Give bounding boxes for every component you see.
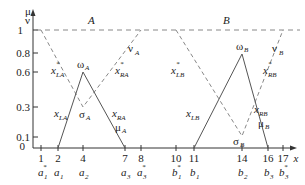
omega-a-label: ωA [77, 58, 90, 72]
y-tick-label: 0.6 [16, 66, 30, 78]
svg-text:1: 1 [196, 173, 200, 181]
svg-text:*: * [120, 60, 124, 68]
svg-text:1: 1 [60, 173, 64, 181]
x-star-lb-label: xLB* [170, 60, 185, 79]
mu-a-label: μA [115, 121, 127, 135]
svg-text:LB: LB [175, 71, 185, 79]
svg-text:2: 2 [85, 173, 89, 181]
x-rb-label: xRB [253, 103, 268, 118]
x-sub-label-a1: a1 [54, 166, 64, 181]
svg-text:RB: RB [267, 71, 277, 79]
x-sub-label-b1-star: b1* [172, 163, 182, 181]
y-axis-arrow-icon [31, 9, 36, 16]
set-b-label: B [223, 14, 230, 26]
svg-text:ν: ν [272, 42, 277, 54]
fuzzy-sets-chart: μ ν 1 0.8 0.6 0.3 0.1 0 1 2 4 7 8 10 11 [0, 0, 305, 185]
x-sub-labels: a1* a1 a2 a3 a3* b1* b1 b2 b3 b3* [38, 163, 289, 181]
x-tick-label: 14 [237, 152, 249, 164]
x-sub-label-a2: a2 [79, 166, 89, 181]
svg-text:2: 2 [244, 173, 248, 181]
svg-text:*: * [268, 60, 272, 68]
x-tick-labels: 1 2 4 7 8 10 11 14 16 17 x [38, 152, 298, 164]
svg-text:RA: RA [119, 71, 129, 79]
svg-text:1: 1 [178, 173, 182, 181]
x-lb-label: xLB [185, 107, 200, 122]
svg-text:*: * [56, 60, 60, 68]
svg-text:A: A [134, 49, 140, 57]
x-star-rb-label: xRB* [262, 60, 277, 79]
nu-a-curve [41, 30, 141, 107]
x-la-label: xLA [53, 107, 68, 122]
y-axis-label-nu: ν [25, 14, 30, 26]
x-sub-label-a3: a3 [121, 166, 131, 181]
y-tick-label: 0.8 [16, 47, 30, 59]
svg-text:ω: ω [77, 58, 84, 70]
svg-text:LB: LB [190, 114, 200, 122]
mu-b-label: μB [258, 117, 270, 131]
x-tick-label: 16 [263, 152, 275, 164]
y-tick-label: 1 [18, 24, 24, 36]
svg-text:A: A [84, 64, 90, 72]
svg-text:μ: μ [258, 117, 264, 129]
svg-text:*: * [284, 163, 288, 171]
svg-text:B: B [279, 49, 284, 57]
svg-text:B: B [240, 141, 245, 149]
x-sub-label-b1: b1 [190, 166, 200, 181]
x-sub-label-b3-star: b3* [279, 163, 289, 181]
svg-text:1: 1 [44, 173, 48, 181]
x-sub-label-a1-star: a1* [38, 163, 48, 181]
svg-text:3: 3 [142, 173, 147, 181]
y-tick-label: 0.3 [16, 101, 30, 113]
y-ticks [33, 30, 38, 137]
svg-text:B: B [265, 123, 270, 131]
svg-text:RA: RA [116, 114, 126, 122]
x-tick-label: 4 [80, 152, 86, 164]
svg-text:μ: μ [115, 121, 121, 133]
svg-text:ω: ω [236, 40, 243, 52]
x-ra-label: xRA [111, 107, 126, 122]
mu-b-curve [194, 54, 268, 148]
nu-a-label: νA [128, 42, 140, 57]
svg-text:σ: σ [233, 135, 239, 147]
svg-text:*: * [142, 163, 146, 171]
y-tick-labels: 1 0.8 0.6 0.3 0.1 0 [16, 24, 30, 152]
svg-text:LA: LA [58, 114, 68, 122]
svg-text:LA: LA [55, 71, 65, 79]
svg-text:3: 3 [126, 173, 131, 181]
x-tick-label: 7 [122, 152, 128, 164]
sigma-a-label: σA [79, 108, 91, 122]
svg-text:A: A [85, 114, 91, 122]
svg-text:*: * [176, 60, 180, 68]
omega-b-label: ωB [236, 40, 249, 54]
x-sub-label-b2: b2 [238, 166, 248, 181]
x-tick-label: 2 [55, 152, 61, 164]
x-sub-label-b3: b3 [264, 166, 274, 181]
svg-text:A: A [121, 127, 127, 135]
svg-text:3: 3 [284, 173, 289, 181]
svg-text:ν: ν [128, 42, 133, 54]
svg-text:σ: σ [79, 108, 85, 120]
y-tick-label: 0 [20, 140, 26, 152]
x-axis-arrow-icon [290, 146, 297, 151]
x-axis-label: x [293, 152, 299, 164]
svg-text:3: 3 [269, 173, 274, 181]
x-sub-label-a3-star: a3* [137, 163, 147, 181]
svg-text:B: B [244, 46, 249, 54]
set-a-label: A [87, 14, 95, 26]
svg-text:*: * [177, 163, 181, 171]
sigma-b-label: σB [233, 135, 245, 149]
x-tick-label: 11 [189, 152, 200, 164]
svg-text:RB: RB [258, 110, 268, 118]
svg-text:*: * [43, 163, 47, 171]
